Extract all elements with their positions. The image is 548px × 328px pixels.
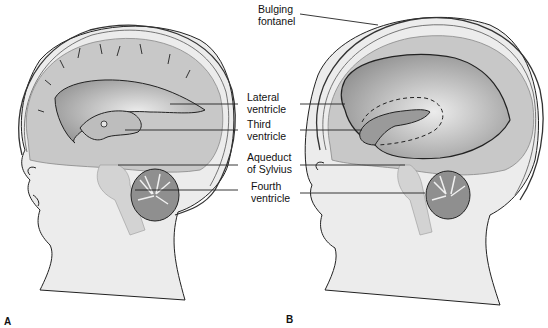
- label-aqueduct-of-sylvius: Aqueduct of Sylvius: [247, 152, 292, 175]
- panel-b-head: [305, 17, 543, 305]
- panel-label-b: B: [286, 314, 293, 325]
- label-lateral-ventricle: Lateral ventricle: [247, 92, 286, 115]
- label-third-ventricle: Third ventricle: [247, 119, 286, 142]
- panel-label-a: A: [4, 316, 11, 327]
- label-fourth-ventricle: Fourth ventricle: [251, 181, 290, 204]
- panel-a-head: [19, 25, 235, 300]
- label-bulging-fontanel: Bulging fontanel: [258, 4, 295, 27]
